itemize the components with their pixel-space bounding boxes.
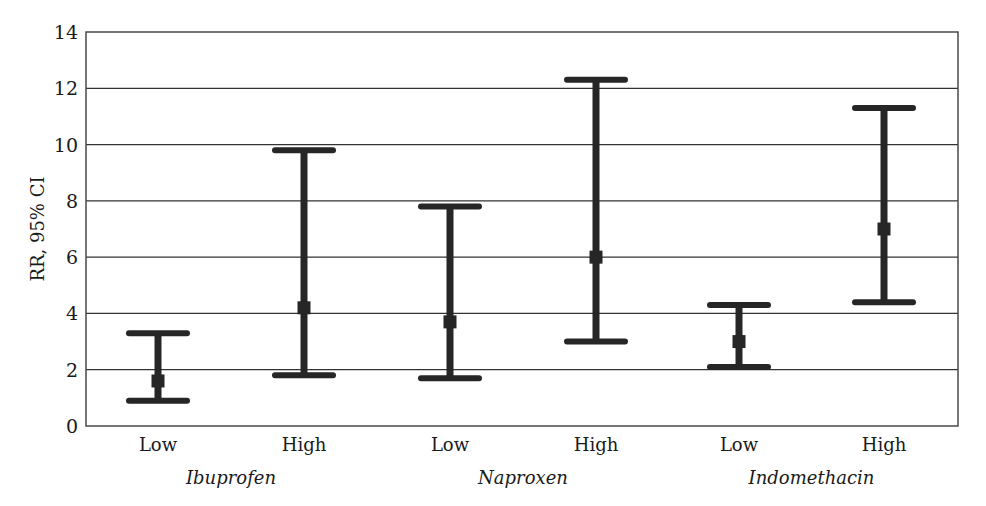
point-estimate-marker bbox=[733, 335, 746, 348]
x-category-label: High bbox=[862, 434, 907, 455]
y-axis-ticks: 02468101214 bbox=[54, 21, 78, 437]
error-bar-indomethacin-high bbox=[855, 108, 913, 302]
point-estimate-marker bbox=[152, 374, 165, 387]
y-tick-label: 0 bbox=[66, 415, 78, 437]
gridlines bbox=[86, 88, 958, 369]
y-tick-label: 14 bbox=[54, 21, 78, 43]
y-tick-label: 2 bbox=[66, 359, 78, 381]
x-axis-labels: LowHighIbuprofenLowHighNaproxenLowHighIn… bbox=[139, 434, 907, 488]
y-tick-label: 12 bbox=[54, 77, 78, 99]
error-bar-naproxen-low bbox=[421, 206, 479, 378]
point-estimate-marker bbox=[298, 301, 311, 314]
error-bar-indomethacin-low bbox=[710, 305, 768, 367]
error-bar-naproxen-high bbox=[567, 80, 625, 342]
x-category-label: Low bbox=[139, 434, 178, 455]
x-category-label: High bbox=[574, 434, 619, 455]
chart: 02468101214 RR, 95% CI LowHighIbuprofenL… bbox=[0, 0, 986, 506]
y-tick-label: 4 bbox=[66, 302, 78, 324]
y-axis-title: RR, 95% CI bbox=[27, 176, 48, 281]
x-category-label: Low bbox=[720, 434, 759, 455]
point-estimate-marker bbox=[590, 251, 603, 264]
point-estimate-marker bbox=[444, 315, 457, 328]
x-group-label: Naproxen bbox=[477, 467, 568, 488]
error-bar-ibuprofen-high bbox=[275, 150, 333, 375]
point-estimate-marker bbox=[878, 223, 891, 236]
x-group-label: Indomethacin bbox=[748, 467, 875, 488]
plot-frame bbox=[86, 32, 958, 426]
error-bar-ibuprofen-low bbox=[129, 333, 187, 401]
error-bars bbox=[129, 80, 913, 401]
x-category-label: High bbox=[282, 434, 327, 455]
x-group-label: Ibuprofen bbox=[185, 467, 276, 488]
x-category-label: Low bbox=[431, 434, 470, 455]
y-tick-label: 10 bbox=[54, 134, 78, 156]
y-tick-label: 6 bbox=[66, 246, 78, 268]
y-tick-label: 8 bbox=[66, 190, 78, 212]
